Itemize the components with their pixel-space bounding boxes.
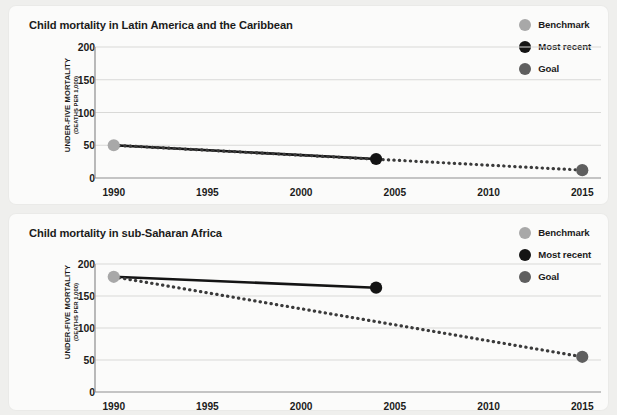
chart-panel-sub-saharan-africa: Child mortality in sub-Saharan Africa Be… xyxy=(9,214,608,410)
chart-svg xyxy=(9,6,608,204)
plot-area: UNDER-FIVE MORTALITY (DEATHS PER 1,000) … xyxy=(9,214,608,410)
chart-svg xyxy=(9,214,608,410)
plot-area: UNDER-FIVE MORTALITY (DEATHS PER 1,000) … xyxy=(9,6,608,204)
chart-panel-latin-america: Child mortality in Latin America and the… xyxy=(9,6,608,204)
chart-page: Child mortality in Latin America and the… xyxy=(0,0,617,415)
